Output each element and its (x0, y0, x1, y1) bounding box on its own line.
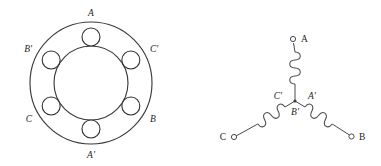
wye-label-c-prime: C' (274, 91, 283, 101)
wye-terminal-label-c: C (220, 132, 226, 142)
stator-label-b: B (150, 114, 156, 124)
wye-terminal-c (231, 134, 236, 139)
wye-label-a-prime: A' (307, 91, 317, 101)
stator-label-a-prime: A' (86, 150, 96, 160)
wye-label-b-prime: B' (291, 107, 300, 117)
wye-coil-a (290, 52, 301, 84)
wye-coil-c (255, 103, 288, 129)
figure-root: A C' B A' C B' A (0, 0, 381, 166)
wye-coil-b (302, 103, 335, 129)
wye-branch-c: C (220, 101, 295, 142)
wye-terminal-label-a: A (301, 34, 308, 44)
wye-lead-b-outer (332, 124, 349, 135)
stator-slot-b (122, 97, 140, 115)
wye-terminal-label-b: B (359, 132, 365, 142)
wye-connection-diagram: A B C (220, 34, 366, 143)
wye-neutral-node (293, 99, 296, 102)
wye-terminal-b (349, 134, 354, 139)
diagram-canvas: A C' B A' C B' A (0, 0, 381, 166)
stator-cross-section: A C' B A' C B' (24, 8, 159, 160)
stator-slot-group (42, 28, 140, 138)
stator-slot-c (42, 97, 60, 115)
stator-inner-circle (54, 46, 128, 120)
stator-label-c-prime: C' (150, 44, 159, 54)
wye-lead-a-upper (294, 43, 296, 52)
wye-branch-a: A (290, 34, 308, 102)
wye-branch-b: B (295, 101, 365, 142)
wye-terminal-a (290, 36, 295, 41)
stator-label-c: C (26, 114, 33, 124)
stator-slot-cp (122, 51, 140, 69)
wye-lead-c-outer (236, 124, 258, 136)
stator-slot-bp (42, 51, 60, 69)
stator-slot-ap (82, 120, 100, 138)
stator-label-b-prime: B' (24, 44, 33, 54)
stator-label-a: A (87, 8, 94, 18)
stator-slot-a (82, 28, 100, 46)
